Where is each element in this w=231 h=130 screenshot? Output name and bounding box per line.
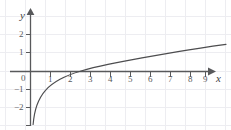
x-tick-label-4: 4: [108, 75, 113, 84]
x-tick-label-5: 5: [128, 75, 133, 84]
x-axis-label: x: [216, 73, 221, 84]
y-tick-label-minus-1: −1: [14, 85, 24, 94]
y-tick-label-2: 2: [19, 30, 24, 39]
x-tick-label-6: 6: [148, 75, 153, 84]
origin-tick-label: 0: [21, 74, 26, 83]
graph-figure: y x 0 2 1 −1 −2 1 2 3 4 5 6 7 8 9: [0, 0, 231, 130]
x-tick-label-9: 9: [203, 75, 208, 84]
curve-path: [33, 44, 226, 124]
x-tick-label-8: 8: [188, 75, 193, 84]
coordinate-plot: [0, 0, 231, 130]
x-tick-label-3: 3: [88, 75, 93, 84]
x-tick-label-2: 2: [68, 75, 73, 84]
y-axis: [27, 8, 35, 126]
y-tick-label-1: 1: [19, 48, 24, 57]
y-axis-label: y: [20, 10, 25, 21]
x-tick-label-7: 7: [168, 75, 173, 84]
x-tick-label-1: 1: [48, 75, 53, 84]
y-tick-label-minus-2: −2: [14, 103, 24, 112]
grid-lines: [0, 0, 231, 130]
